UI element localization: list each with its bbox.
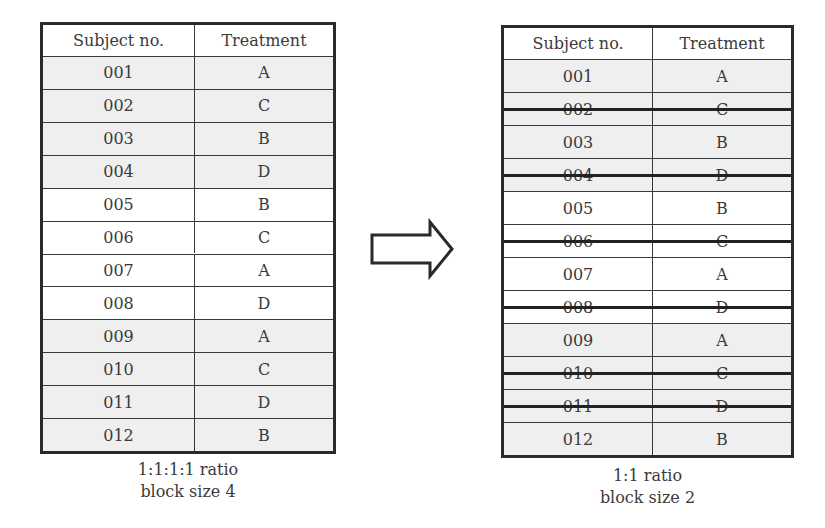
treatment-cell: C <box>195 90 333 122</box>
table-header-row: Subject no.Treatment <box>43 25 333 56</box>
table-row: 006C <box>43 221 333 254</box>
strikethrough-line <box>504 240 791 243</box>
subject-number-cell: 002 <box>43 90 195 122</box>
strikethrough-line <box>504 174 791 177</box>
header-treatment: Treatment <box>195 25 333 56</box>
right-caption-block-size: block size 2 <box>501 487 794 509</box>
header-subject-no: Subject no. <box>504 28 653 59</box>
table-row: 005B <box>43 188 333 221</box>
subject-number-cell: 010 <box>43 353 195 385</box>
table-row: 004D <box>43 155 333 188</box>
treatment-cell: D <box>195 386 333 418</box>
treatment-cell: B <box>653 126 791 158</box>
treatment-cell: B <box>195 189 333 221</box>
subject-number-cell: 007 <box>43 255 195 287</box>
subject-number-cell: 005 <box>43 189 195 221</box>
table-row: 003B <box>43 122 333 155</box>
subject-number-cell: 007 <box>504 258 653 290</box>
header-treatment: Treatment <box>653 28 791 59</box>
table-row: 009A <box>504 323 791 356</box>
subject-number-cell: 003 <box>43 123 195 155</box>
table-row: 011D <box>43 385 333 418</box>
table-row: 012B <box>504 422 791 455</box>
right-randomization-table: Subject no.Treatment001A002C003B004D005B… <box>501 25 794 458</box>
table-row: 001A <box>43 56 333 89</box>
subject-number-cell: 012 <box>504 423 653 455</box>
treatment-cell: B <box>195 419 333 451</box>
table-row: 007A <box>43 254 333 287</box>
left-randomization-table: Subject no.Treatment001A002C003B004D005B… <box>40 22 336 454</box>
treatment-cell: A <box>195 57 333 89</box>
treatment-cell: B <box>653 192 791 224</box>
subject-number-cell: 006 <box>43 222 195 254</box>
right-arrow-icon <box>368 218 458 284</box>
table-row: 004D <box>504 158 791 191</box>
subject-number-cell: 001 <box>504 60 653 92</box>
subject-number-cell: 003 <box>504 126 653 158</box>
subject-number-cell: 008 <box>43 287 195 319</box>
table-row: 010C <box>43 352 333 385</box>
subject-number-cell: 004 <box>43 156 195 188</box>
treatment-cell: D <box>195 156 333 188</box>
table-row: 002C <box>43 89 333 122</box>
treatment-cell: A <box>653 324 791 356</box>
table-row: 001A <box>504 59 791 92</box>
treatment-cell: D <box>195 287 333 319</box>
treatment-cell: A <box>195 320 333 352</box>
left-caption: 1:1:1:1 ratio block size 4 <box>40 459 336 503</box>
strikethrough-line <box>504 372 791 375</box>
treatment-cell: C <box>195 353 333 385</box>
strikethrough-line <box>504 306 791 309</box>
table-row: 002C <box>504 92 791 125</box>
treatment-cell: A <box>195 255 333 287</box>
table-row: 012B <box>43 418 333 451</box>
right-caption: 1:1 ratio block size 2 <box>501 465 794 509</box>
table-row: 009A <box>43 319 333 352</box>
treatment-cell: C <box>195 222 333 254</box>
treatment-cell: A <box>653 60 791 92</box>
treatment-cell: B <box>195 123 333 155</box>
table-row: 005B <box>504 191 791 224</box>
left-caption-ratio: 1:1:1:1 ratio <box>40 459 336 481</box>
table-header-row: Subject no.Treatment <box>504 28 791 59</box>
subject-number-cell: 011 <box>43 386 195 418</box>
subject-number-cell: 001 <box>43 57 195 89</box>
strikethrough-line <box>504 405 791 408</box>
subject-number-cell: 009 <box>43 320 195 352</box>
right-caption-ratio: 1:1 ratio <box>501 465 794 487</box>
header-subject-no: Subject no. <box>43 25 195 56</box>
subject-number-cell: 005 <box>504 192 653 224</box>
table-row: 007A <box>504 257 791 290</box>
table-row: 011D <box>504 389 791 422</box>
subject-number-cell: 009 <box>504 324 653 356</box>
table-row: 006C <box>504 224 791 257</box>
table-row: 003B <box>504 125 791 158</box>
table-row: 008D <box>43 286 333 319</box>
table-row: 008D <box>504 290 791 323</box>
left-caption-block-size: block size 4 <box>40 481 336 503</box>
strikethrough-line <box>504 108 791 111</box>
treatment-cell: A <box>653 258 791 290</box>
treatment-cell: B <box>653 423 791 455</box>
table-row: 010C <box>504 356 791 389</box>
subject-number-cell: 012 <box>43 419 195 451</box>
